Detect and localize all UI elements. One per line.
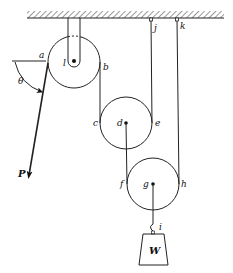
- anchor-j: [150, 18, 153, 21]
- label-d: d: [117, 118, 123, 128]
- label-force-p: P: [17, 168, 26, 179]
- label-k: k: [180, 21, 185, 31]
- label-f: f: [119, 179, 125, 189]
- anchor-k: [176, 18, 179, 21]
- label-j: j: [152, 23, 157, 33]
- rope-h-to-k: [177, 20, 179, 184]
- label-a: a: [39, 50, 44, 60]
- label-c: c: [93, 118, 98, 128]
- label-h: h: [181, 179, 187, 189]
- labels: a b l c d e f g h i j k θ P W: [17, 21, 187, 256]
- hook: [150, 224, 154, 234]
- label-i: i: [159, 222, 162, 232]
- top-pulley-hidden-rim: [68, 36, 80, 37]
- label-l: l: [63, 58, 66, 68]
- pulley-diagram: a b l c d e f g h i j k θ P W: [0, 0, 233, 273]
- ceiling: [27, 11, 224, 18]
- ceiling-hatch: [27, 11, 224, 18]
- label-weight-w: W: [149, 245, 162, 256]
- rope-d-to-f: [126, 123, 127, 184]
- label-b: b: [103, 62, 109, 72]
- label-theta: θ: [18, 76, 24, 86]
- label-e: e: [155, 118, 160, 128]
- rope-e-to-j: [151, 20, 152, 123]
- rope-force-p: [29, 63, 48, 175]
- top-pulley: [48, 36, 100, 88]
- label-g: g: [143, 179, 149, 189]
- top-pulley-axle: [72, 59, 76, 63]
